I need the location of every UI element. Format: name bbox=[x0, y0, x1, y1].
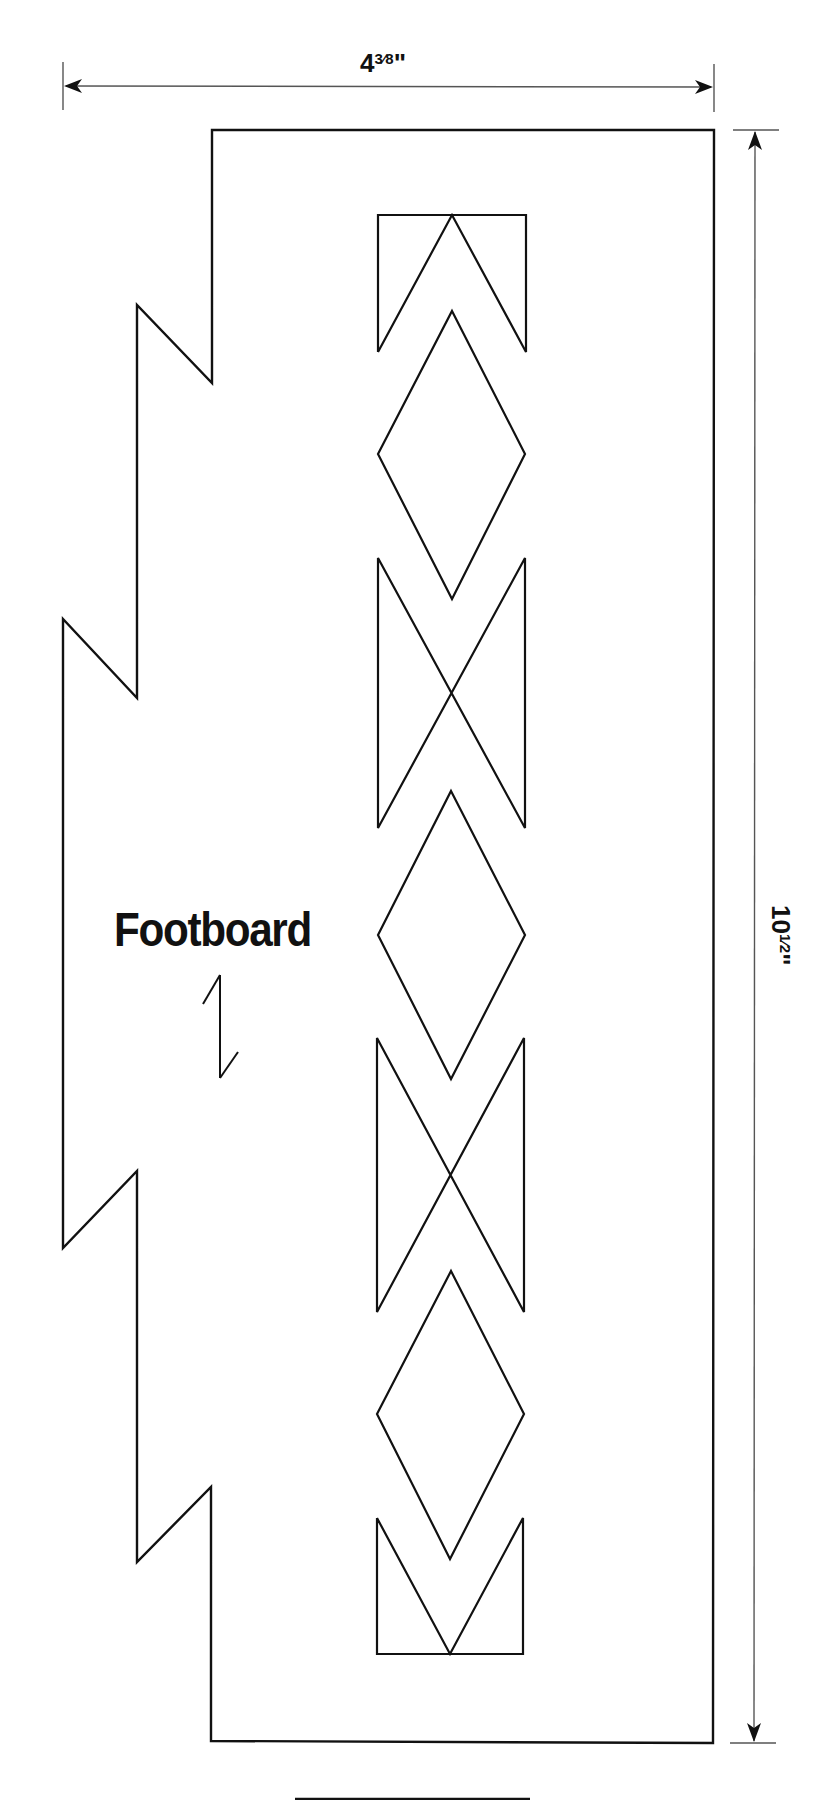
diamond-1 bbox=[378, 311, 525, 599]
diamond-2 bbox=[378, 791, 525, 1079]
diamond-3 bbox=[377, 1271, 524, 1559]
pattern-diagram: 43⁄8" 101⁄2" Footboard bbox=[0, 0, 838, 1800]
part-label: Footboard bbox=[114, 906, 311, 954]
height-dimension-label: 101⁄2" bbox=[768, 905, 794, 965]
inlay-pattern bbox=[377, 215, 526, 1654]
grain-direction-icon bbox=[203, 975, 238, 1078]
top-chevron-bracket bbox=[378, 215, 526, 352]
height-dimension-line bbox=[754, 132, 755, 1741]
width-dimension-line bbox=[66, 86, 711, 87]
bottom-chevron-bracket bbox=[377, 1518, 523, 1654]
width-dimension-label: 43⁄8" bbox=[360, 50, 406, 76]
